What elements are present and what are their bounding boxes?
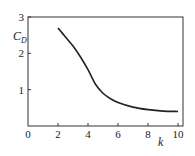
- y-tick-label: 2: [19, 47, 25, 59]
- x-tick-label: 2: [55, 128, 61, 140]
- y-tick-label: 1: [19, 84, 25, 96]
- x-tick-label: 0: [25, 128, 31, 140]
- y-tick-label: 3: [19, 11, 25, 23]
- x-tick-label: 10: [173, 128, 185, 140]
- line-chart: 0246810123 CD k: [0, 0, 195, 156]
- plot-frame: [28, 17, 183, 126]
- axis-ticks: [28, 17, 178, 126]
- x-tick-label: 8: [145, 128, 151, 140]
- x-tick-label: 6: [115, 128, 121, 140]
- y-axis-label: CD: [13, 29, 27, 45]
- x-tick-label: 4: [85, 128, 91, 140]
- data-curve: [58, 28, 178, 112]
- x-axis-label: k: [158, 135, 164, 149]
- tick-labels: 0246810123: [19, 11, 185, 140]
